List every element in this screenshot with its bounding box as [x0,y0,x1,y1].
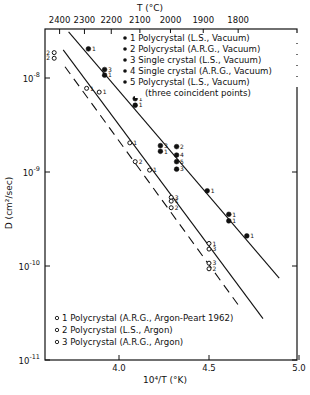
legend-vacuum-entry: 1 Polycrystal (L.S., Vacuum) [130,33,250,43]
point-label: 1 [232,217,236,224]
open-data-point [207,247,211,251]
legend-vacuum-entry: 3 Single crystal (L.S., Vacuum) [130,55,261,65]
legend-open-marker-icon [55,328,58,331]
point-label: 1 [139,101,143,108]
point-label: 1 [108,71,112,78]
legend-vacuum-entry: 4 Single crystal (A.R.G., Vacuum) [130,66,272,76]
x-tick-label: 5.0 [292,363,306,373]
open-data-point [52,51,56,55]
legend-filled-marker-icon [123,58,127,62]
open-data-point [169,199,173,203]
y-tick-label: 10-9 [23,165,40,178]
point-label: 2 [180,143,184,150]
point-label: 1 [92,45,96,52]
legend-filled-marker-icon [123,36,127,40]
filled-data-point [244,234,249,239]
y-tick-label: 10-8 [23,71,40,84]
filled-data-point [86,46,91,51]
legend-vacuum-entry: 5 Polycrystal (L.S., Vacuum) [130,77,250,87]
legend-argon: 1 Polycrystal (A.R.G., Argon-Peart 1962)… [55,313,233,347]
legend-open-marker-icon [55,340,58,343]
open-data-point [133,160,137,164]
legend-vacuum: 1 Polycrystal (L.S., Vacuum)2 Polycrysta… [123,33,298,98]
open-data-point [207,261,211,265]
top-tick-label: 2400 [49,15,71,25]
top-tick-label: 2200 [100,15,122,25]
point-label: 2 [175,204,179,211]
x-axis-title: 10⁴/T (°K) [143,375,187,385]
open-data-point [207,267,211,271]
filled-data-point [158,143,163,148]
legend-argon-entry: 3 Polycrystal (A.R.G., Argon) [62,337,183,347]
legend-vacuum-note: (three coincident points) [145,88,251,98]
point-label: 3 [213,245,217,252]
filled-data-point [102,73,107,78]
legend-open-marker-icon [55,316,58,319]
point-label: 2 [139,158,143,165]
open-data-point [128,141,132,145]
y-tick-label: 10-11 [19,353,40,366]
point-label: 2 [46,54,50,61]
open-data-point [85,86,89,90]
filled-data-point [102,67,107,72]
open-data-point [169,206,173,210]
top-axis-title: T (°C) [136,3,163,13]
filled-data-point [174,144,179,149]
open-data-point [148,168,152,172]
legend-filled-marker-icon [123,69,127,73]
legend-argon-entry: 2 Polycrystal (L.S., Argon) [62,325,173,335]
top-tick-label: 1900 [192,15,214,25]
open-data-point [52,56,56,60]
filled-data-point [133,103,138,108]
legend-filled-marker-icon [123,80,127,84]
diffusion-chart: T (°C) 2400230022002100200019001800 10⁴/… [0,0,310,395]
point-label: 1 [211,187,215,194]
open-data-point [207,241,211,245]
legend-filled-marker-icon [123,47,127,51]
point-label: 1 [250,232,254,239]
top-tick-label: 1800 [227,15,249,25]
filled-data-point [205,188,210,193]
filled-data-point [226,212,231,217]
argon-fit-dashed-line [65,67,241,310]
point-label: 1 [133,139,137,146]
open-data-point [97,90,101,94]
top-tick-label: 2000 [160,15,182,25]
top-tick-label: 2300 [74,15,96,25]
point-label: 1 [90,85,94,92]
x-tick-label: 4.5 [202,363,216,373]
filled-data-point [174,153,179,158]
y-tick-label: 10-10 [19,259,40,272]
filled-data-point [174,167,179,172]
point-label: 1 [153,166,157,173]
point-label: 1 [164,148,168,155]
top-tick-label: 2100 [129,15,151,25]
point-label: 1 [103,88,107,95]
filled-data-point [174,159,179,164]
x-tick-label: 4.0 [112,363,126,373]
point-label: 2 [213,265,217,272]
legend-argon-entry: 1 Polycrystal (A.R.G., Argon-Peart 1962) [62,313,233,323]
legend-vacuum-entry: 2 Polycrystal (A.R.G., Vacuum) [130,44,260,54]
y-axis-title: D (cm²/sec) [4,177,14,229]
point-label: 5 [180,158,184,165]
point-label: 3 [180,165,184,172]
filled-data-point [158,149,163,154]
filled-data-point [226,218,231,223]
